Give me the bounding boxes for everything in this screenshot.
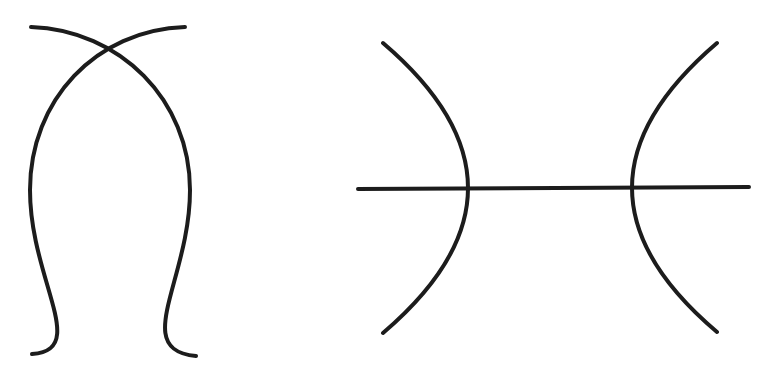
figure-intersecting-arcs xyxy=(30,27,196,356)
horizontal-line xyxy=(358,187,749,189)
figure-arcs-with-line xyxy=(358,43,749,333)
arc-bulging-right xyxy=(31,27,196,356)
arc-bulging-left xyxy=(30,27,185,354)
diagram-canvas xyxy=(0,0,765,377)
